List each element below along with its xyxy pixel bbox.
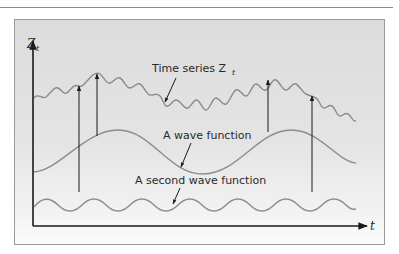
second-wave-function-label: A second wave function [135, 174, 266, 187]
time-series-curve [34, 73, 356, 121]
time-series-label-subscript: t [232, 68, 236, 77]
wave-function-pointer-arrow [181, 143, 191, 167]
y-axis-label-subscript: t [36, 44, 40, 53]
decomposition-diagram: Z t t Time series Z t A wave function A … [0, 0, 399, 254]
wave-function-label: A wave function [163, 129, 251, 142]
x-axis-label: t [370, 219, 375, 233]
second-wave-function-pointer-arrow [173, 188, 180, 204]
time-series-label: Time series Z [151, 62, 226, 75]
second-wave-function-curve [34, 199, 356, 211]
y-axis-label: Z [26, 37, 36, 51]
time-series-pointer-arrow [165, 78, 176, 102]
